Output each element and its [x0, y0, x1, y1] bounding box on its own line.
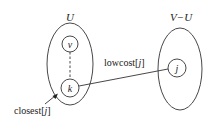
set-v-minus-u-label: V−U — [170, 11, 193, 23]
closest-arrow-line — [45, 96, 55, 104]
node-k-label: k — [68, 83, 73, 94]
closest-label: closest[j] — [14, 105, 51, 116]
node-j-label: j — [174, 63, 179, 74]
set-u-label: U — [66, 11, 75, 23]
lowcost-label: lowcost[j] — [104, 57, 145, 68]
set-v-minus-u-ellipse — [158, 28, 202, 110]
node-v-label: v — [68, 39, 73, 50]
prim-mst-diagram: U v k V−U j lowcost[j] closest[j] — [0, 0, 214, 133]
